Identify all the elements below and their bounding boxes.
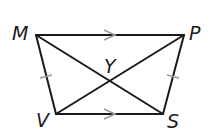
label-v: V (36, 109, 51, 131)
side-vm (36, 35, 56, 114)
label-p: P (189, 22, 201, 44)
label-s: S (167, 110, 179, 132)
trapezoid-diagram: M P V S Y (0, 0, 213, 139)
diagonal-pv (56, 35, 184, 114)
label-m: M (12, 22, 28, 44)
label-y: Y (104, 55, 117, 77)
diagonal-ms (36, 35, 163, 114)
